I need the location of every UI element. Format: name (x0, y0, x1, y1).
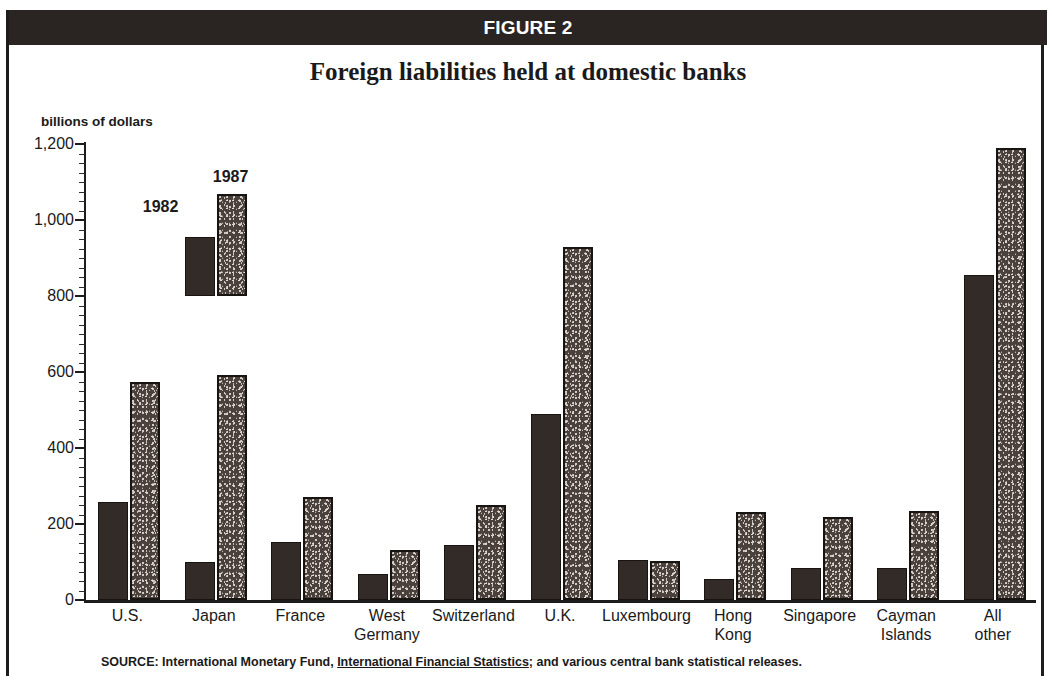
y-tick-minor (79, 553, 85, 554)
bar-group (618, 142, 680, 600)
y-tick-label: 1,200 (4, 136, 74, 152)
y-tick-major (75, 599, 86, 601)
y-tick-minor (79, 334, 85, 335)
y-tick-minor (79, 154, 85, 155)
y-tick-label: 1,000 (4, 212, 74, 228)
bar-1982 (704, 579, 734, 600)
figure-frame: FIGURE 2 Foreign liabilities held at dom… (6, 10, 1044, 676)
y-tick-minor (79, 591, 85, 592)
legend-swatch-1987 (217, 194, 247, 296)
bar-1982 (185, 562, 215, 600)
y-tick-major (75, 295, 86, 297)
y-tick-minor (79, 201, 85, 202)
y-tick-minor (79, 410, 85, 411)
y-tick-minor (79, 572, 85, 573)
bar-1987 (909, 511, 939, 600)
y-tick-minor (79, 420, 85, 421)
figure-header-band: FIGURE 2 (9, 10, 1047, 45)
y-tick-minor (79, 429, 85, 430)
bar-1987 (476, 505, 506, 600)
chart-title: Foreign liabilities held at domestic ban… (9, 58, 1047, 86)
y-tick-minor (79, 382, 85, 383)
source-publication-title: International Financial Statistics (337, 655, 529, 669)
x-category-label-line: other (937, 625, 1048, 644)
x-category-label-line: Kong (678, 625, 789, 644)
plot-area: 02004006008001,0001,200 19821987 (84, 142, 1036, 602)
y-tick-minor (79, 477, 85, 478)
bar-1982 (877, 568, 907, 600)
bar-group (531, 142, 593, 600)
y-tick-minor (79, 315, 85, 316)
bar-1982 (531, 414, 561, 600)
y-tick-label: 200 (4, 516, 74, 532)
bar-group (964, 142, 1026, 600)
y-tick-minor (79, 534, 85, 535)
bar-group (791, 142, 853, 600)
y-tick-minor (79, 211, 85, 212)
y-tick-minor (79, 306, 85, 307)
bar-1982 (618, 560, 648, 600)
bar-group (704, 142, 766, 600)
y-tick-minor (79, 277, 85, 278)
y-tick-minor (79, 486, 85, 487)
x-category-label-line: All (937, 606, 1048, 625)
y-tick-minor (79, 581, 85, 582)
source-note: SOURCE: International Monetary Fund, Int… (101, 655, 802, 669)
bar-1987 (390, 550, 420, 600)
y-tick-minor (79, 401, 85, 402)
x-category-label: Allother (937, 606, 1048, 644)
y-tick-minor (79, 173, 85, 174)
figure-number-label: FIGURE 2 (9, 17, 1047, 39)
x-axis-line (84, 600, 1036, 603)
y-tick-minor (79, 439, 85, 440)
y-tick-label: 0 (4, 592, 74, 608)
y-tick-minor (79, 467, 85, 468)
y-tick-minor (79, 543, 85, 544)
bar-group (271, 142, 333, 600)
bar-1987 (823, 517, 853, 600)
legend-swatch-1982 (185, 237, 215, 296)
bar-1982 (271, 542, 301, 600)
y-tick-label: 400 (4, 440, 74, 456)
y-tick-minor (79, 163, 85, 164)
y-tick-minor (79, 192, 85, 193)
y-tick-minor (79, 268, 85, 269)
bar-1982 (358, 574, 388, 600)
y-tick-minor (79, 515, 85, 516)
bar-group (358, 142, 420, 600)
y-tick-minor (79, 325, 85, 326)
y-tick-minor (79, 182, 85, 183)
bar-1987 (563, 247, 593, 600)
y-tick-label: 600 (4, 364, 74, 380)
legend-label-1987: 1987 (213, 168, 249, 186)
bar-1987 (217, 375, 247, 600)
bar-1982 (791, 568, 821, 600)
y-tick-minor (79, 391, 85, 392)
bar-1987 (736, 512, 766, 600)
source-suffix: ; and various central bank statistical r… (529, 655, 802, 669)
y-axis-unit-label: billions of dollars (41, 114, 153, 129)
legend-label-1982: 1982 (143, 198, 179, 216)
y-tick-minor (79, 458, 85, 459)
y-tick-minor (79, 239, 85, 240)
y-tick-minor (79, 249, 85, 250)
bar-1982 (444, 545, 474, 600)
y-tick-minor (79, 344, 85, 345)
bar-1987 (303, 497, 333, 600)
x-axis-category-labels: U.S.JapanFranceWestGermanySwitzerlandU.K… (84, 606, 1036, 652)
x-category-label-line: Germany (332, 625, 443, 644)
y-tick-major (75, 143, 86, 145)
y-tick-major (75, 447, 86, 449)
bar-1982 (964, 275, 994, 600)
y-tick-minor (79, 353, 85, 354)
bar-1987 (130, 382, 160, 600)
y-tick-major (75, 219, 86, 221)
y-tick-minor (79, 287, 85, 288)
y-tick-minor (79, 258, 85, 259)
y-tick-minor (79, 505, 85, 506)
y-tick-major (75, 371, 86, 373)
source-prefix: SOURCE: International Monetary Fund, (101, 655, 337, 669)
bar-1982 (98, 502, 128, 600)
y-tick-label: 800 (4, 288, 74, 304)
bar-1987 (996, 148, 1026, 600)
